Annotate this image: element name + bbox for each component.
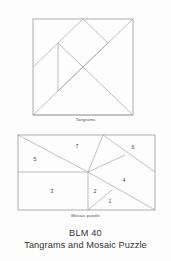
tangram-line-small-square-lower-left (58, 43, 83, 67)
tangram-line-small-upper-right (83, 19, 108, 43)
mosaic-line-diagonal-center-to-br (88, 172, 155, 210)
tangram-line-small-square-lower-right (83, 43, 108, 67)
mosaic-region-label-5: 5 (34, 156, 37, 162)
mosaic-line-region6-lower-edge (103, 135, 155, 172)
mosaic-region-label-2: 2 (94, 188, 97, 194)
mosaic-puzzle-caption: Mosaic puzzle (0, 213, 171, 218)
tangrams-caption: Tangrams (0, 117, 171, 122)
mosaic-figure: 1 2 3 4 5 6 7 (18, 135, 155, 210)
document-title: Tangrams and Mosaic Puzzle (0, 240, 171, 250)
tangram-line-right-triangle (83, 67, 133, 115)
puzzle-figures: 1 2 3 4 5 6 7 (0, 0, 171, 261)
tangram-line-parallelogram-edge (58, 67, 83, 91)
tangram-figure (33, 19, 133, 115)
mosaic-region-label-7: 7 (76, 143, 79, 149)
worksheet-page: 1 2 3 4 5 6 7 Tangrams Mosaic puzzle BLM… (0, 0, 171, 261)
mosaic-region-label-4: 4 (123, 177, 126, 183)
mosaic-line-diagonal-upper-left (18, 135, 88, 172)
document-code: BLM 40 (0, 228, 171, 238)
mosaic-region-label-6: 6 (132, 144, 135, 150)
mosaic-region-label-3: 3 (51, 188, 54, 194)
mosaic-region-label-1: 1 (109, 198, 112, 204)
